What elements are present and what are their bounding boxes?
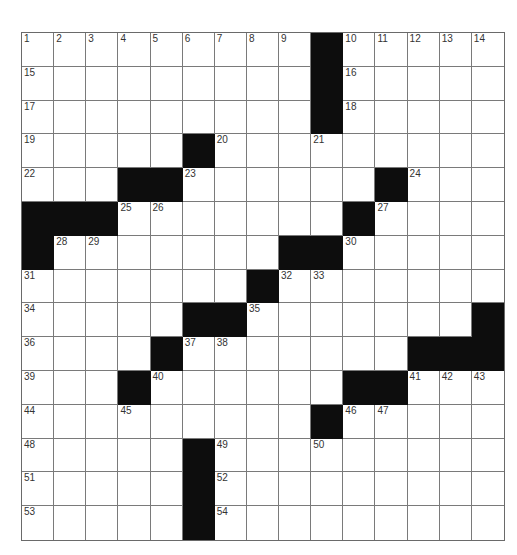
answer-cell[interactable]: [440, 405, 472, 439]
answer-cell[interactable]: 36: [22, 337, 54, 371]
answer-cell[interactable]: [311, 371, 343, 405]
answer-cell[interactable]: [86, 472, 118, 506]
answer-cell[interactable]: 7: [215, 33, 247, 67]
answer-cell[interactable]: [247, 371, 279, 405]
answer-cell[interactable]: [472, 439, 504, 473]
answer-cell[interactable]: [247, 506, 279, 540]
answer-cell[interactable]: [279, 303, 311, 337]
answer-cell[interactable]: [54, 405, 86, 439]
answer-cell[interactable]: 8: [247, 33, 279, 67]
answer-cell[interactable]: 45: [118, 405, 150, 439]
answer-cell[interactable]: [54, 168, 86, 202]
answer-cell[interactable]: [151, 405, 183, 439]
answer-cell[interactable]: [279, 168, 311, 202]
answer-cell[interactable]: [215, 236, 247, 270]
answer-cell[interactable]: [375, 67, 407, 101]
answer-cell[interactable]: 38: [215, 337, 247, 371]
answer-cell[interactable]: [343, 439, 375, 473]
answer-cell[interactable]: 40: [151, 371, 183, 405]
answer-cell[interactable]: [440, 472, 472, 506]
answer-cell[interactable]: [375, 472, 407, 506]
answer-cell[interactable]: [472, 67, 504, 101]
answer-cell[interactable]: [279, 371, 311, 405]
answer-cell[interactable]: [183, 371, 215, 405]
answer-cell[interactable]: 29: [86, 236, 118, 270]
answer-cell[interactable]: 39: [22, 371, 54, 405]
answer-cell[interactable]: [54, 134, 86, 168]
answer-cell[interactable]: [279, 439, 311, 473]
answer-cell[interactable]: 47: [375, 405, 407, 439]
answer-cell[interactable]: [86, 405, 118, 439]
answer-cell[interactable]: 21: [311, 134, 343, 168]
answer-cell[interactable]: [311, 506, 343, 540]
answer-cell[interactable]: [54, 270, 86, 304]
answer-cell[interactable]: [472, 236, 504, 270]
answer-cell[interactable]: 27: [375, 202, 407, 236]
answer-cell[interactable]: [118, 101, 150, 135]
answer-cell[interactable]: [54, 337, 86, 371]
answer-cell[interactable]: [215, 270, 247, 304]
answer-cell[interactable]: [279, 67, 311, 101]
answer-cell[interactable]: [279, 134, 311, 168]
answer-cell[interactable]: [86, 168, 118, 202]
answer-cell[interactable]: [118, 303, 150, 337]
answer-cell[interactable]: 19: [22, 134, 54, 168]
answer-cell[interactable]: [440, 236, 472, 270]
answer-cell[interactable]: 4: [118, 33, 150, 67]
answer-cell[interactable]: [54, 506, 86, 540]
answer-cell[interactable]: [54, 371, 86, 405]
answer-cell[interactable]: [472, 472, 504, 506]
answer-cell[interactable]: [472, 506, 504, 540]
answer-cell[interactable]: [86, 101, 118, 135]
answer-cell[interactable]: [151, 101, 183, 135]
answer-cell[interactable]: [118, 270, 150, 304]
answer-cell[interactable]: [343, 168, 375, 202]
answer-cell[interactable]: 43: [472, 371, 504, 405]
answer-cell[interactable]: 17: [22, 101, 54, 135]
answer-cell[interactable]: [54, 303, 86, 337]
answer-cell[interactable]: 25: [118, 202, 150, 236]
answer-cell[interactable]: 22: [22, 168, 54, 202]
answer-cell[interactable]: 34: [22, 303, 54, 337]
answer-cell[interactable]: 10: [343, 33, 375, 67]
answer-cell[interactable]: [440, 303, 472, 337]
answer-cell[interactable]: 15: [22, 67, 54, 101]
answer-cell[interactable]: [279, 405, 311, 439]
answer-cell[interactable]: [54, 101, 86, 135]
answer-cell[interactable]: 24: [408, 168, 440, 202]
answer-cell[interactable]: [408, 303, 440, 337]
answer-cell[interactable]: [472, 168, 504, 202]
answer-cell[interactable]: [247, 472, 279, 506]
answer-cell[interactable]: 11: [375, 33, 407, 67]
answer-cell[interactable]: [408, 67, 440, 101]
answer-cell[interactable]: 13: [440, 33, 472, 67]
answer-cell[interactable]: [247, 67, 279, 101]
answer-cell[interactable]: [151, 134, 183, 168]
answer-cell[interactable]: [311, 337, 343, 371]
answer-cell[interactable]: [375, 303, 407, 337]
answer-cell[interactable]: [408, 270, 440, 304]
answer-cell[interactable]: 28: [54, 236, 86, 270]
answer-cell[interactable]: 37: [183, 337, 215, 371]
answer-cell[interactable]: [215, 101, 247, 135]
answer-cell[interactable]: [183, 236, 215, 270]
answer-cell[interactable]: [183, 270, 215, 304]
answer-cell[interactable]: [440, 168, 472, 202]
answer-cell[interactable]: [440, 134, 472, 168]
answer-cell[interactable]: [311, 168, 343, 202]
answer-cell[interactable]: [440, 439, 472, 473]
answer-cell[interactable]: 44: [22, 405, 54, 439]
answer-cell[interactable]: [279, 101, 311, 135]
answer-cell[interactable]: 20: [215, 134, 247, 168]
answer-cell[interactable]: [86, 270, 118, 304]
answer-cell[interactable]: [375, 270, 407, 304]
answer-cell[interactable]: [118, 67, 150, 101]
answer-cell[interactable]: [215, 202, 247, 236]
answer-cell[interactable]: 30: [343, 236, 375, 270]
answer-cell[interactable]: 31: [22, 270, 54, 304]
answer-cell[interactable]: 53: [22, 506, 54, 540]
answer-cell[interactable]: 9: [279, 33, 311, 67]
answer-cell[interactable]: [86, 506, 118, 540]
answer-cell[interactable]: [215, 371, 247, 405]
answer-cell[interactable]: [472, 270, 504, 304]
